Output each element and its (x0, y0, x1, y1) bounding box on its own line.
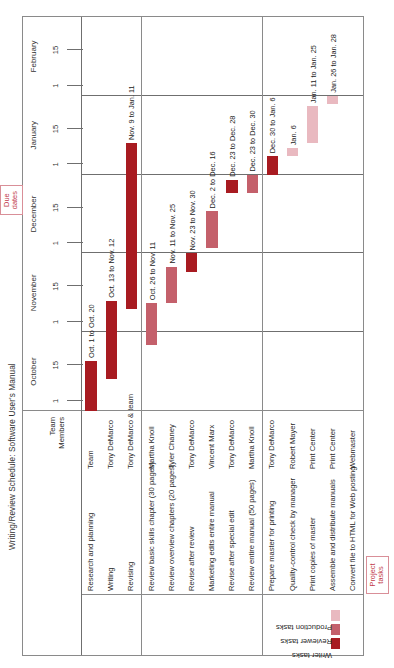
gantt-bar-date-label: Jan. 26 to Jan. 28 (329, 34, 338, 93)
gantt-chart-page: Writing/Review Schedule: Software User's… (0, 0, 394, 668)
gantt-bar-date-label: Jan. 11 to Jan. 25 (309, 45, 318, 103)
gantt-bar[interactable] (247, 175, 258, 193)
axis-tick-label: 15 (51, 125, 60, 133)
axis-tick-label: 15 (51, 361, 60, 369)
month-header-january: January115 (27, 96, 81, 175)
month-gridline (81, 95, 363, 96)
gantt-bar[interactable] (186, 253, 197, 271)
group-divider (141, 17, 142, 655)
axis-tick-label: 15 (51, 282, 60, 290)
gantt-bar[interactable] (327, 96, 338, 104)
gantt-bar[interactable] (126, 143, 137, 308)
gantt-bar-date-label: Dec. 30 to Jan. 6 (268, 97, 277, 153)
gantt-bar-date-label: Dec. 23 to Dec. 28 (228, 116, 237, 177)
gantt-bar[interactable] (287, 148, 298, 156)
month-header-february: February115 (27, 17, 81, 96)
month-gridline (81, 174, 363, 175)
page-title: Writing/Review Schedule: Software User's… (8, 363, 17, 550)
gantt-bar[interactable] (166, 267, 177, 304)
gantt-bar-date-label: Oct. 13 to Nov. 12 (107, 239, 116, 298)
month-header-december: December115 (27, 175, 81, 254)
gantt-bar-date-label: Dec. 23 to Dec. 30 (248, 110, 257, 171)
chart-frame: Writer tasksReviewer tasksProduction tas… (22, 16, 364, 656)
month-axis-header: October115November115December115January1… (23, 17, 81, 655)
axis-tick-label: 1 (51, 241, 60, 245)
gantt-bar[interactable] (206, 211, 217, 248)
gantt-chart: Writing/Review Schedule: Software User's… (0, 0, 394, 668)
gantt-bar[interactable] (267, 156, 278, 174)
callout-due-dates: Due dates (0, 185, 23, 215)
gantt-bar-date-label: Oct. 1 to Oct. 20 (87, 304, 96, 358)
axis-tick-label: 15 (51, 46, 60, 54)
gantt-bar-date-label: Dec. 2 to Dec. 16 (208, 151, 217, 208)
month-gridline (81, 331, 363, 332)
plot-body: Oct. 1 to Oct. 20Oct. 13 to Nov. 12Nov. … (81, 17, 363, 655)
gantt-bar[interactable] (226, 180, 237, 193)
gantt-bar-date-label: Nov. 9 to Jan. 11 (127, 85, 136, 140)
gantt-bar-date-label: Oct. 26 to Nov. 11 (148, 242, 157, 300)
gantt-bar[interactable] (307, 106, 318, 143)
group-divider (262, 17, 263, 655)
gantt-bar-date-label: Jan. 6 (289, 125, 298, 145)
month-header-october: October115 (27, 332, 81, 411)
axis-tick-label: 1 (51, 83, 60, 87)
axis-tick-label: 1 (51, 162, 60, 166)
axis-tick-label: 1 (51, 320, 60, 324)
month-label: October (29, 332, 38, 411)
gantt-bar[interactable] (85, 361, 96, 411)
gantt-bar-date-label: Nov. 11 to Nov. 25 (168, 204, 177, 264)
gantt-bar[interactable] (106, 301, 117, 380)
axis-tick-label: 1 (51, 399, 60, 403)
month-header-november: November115 (27, 253, 81, 332)
gantt-bar[interactable] (146, 303, 157, 345)
month-label: January (29, 96, 38, 175)
month-label: November (29, 253, 38, 332)
month-label: December (29, 175, 38, 254)
month-gridline (81, 252, 363, 253)
month-label: February (29, 17, 38, 96)
callout-project-tasks: Project tasks (366, 556, 389, 594)
gantt-bar-date-label: Nov. 23 to Nov. 30 (188, 190, 197, 250)
axis-tick-label: 15 (51, 203, 60, 211)
